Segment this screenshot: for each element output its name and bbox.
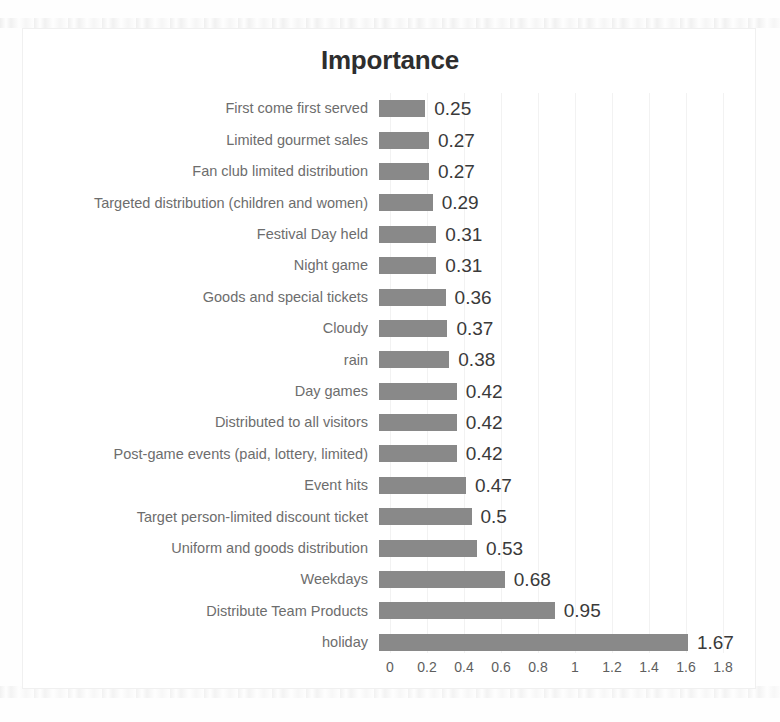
bar-container: 0.68 — [379, 564, 757, 595]
x-axis-tick-label: 1.8 — [713, 659, 732, 675]
category-label: Targeted distribution (children and wome… — [23, 196, 379, 211]
x-axis: 00.20.40.60.811.21.41.61.8 — [23, 653, 757, 683]
x-axis-tick-label: 1.4 — [639, 659, 658, 675]
bar-value-label: 0.47 — [475, 476, 512, 495]
bar[interactable] — [379, 100, 425, 117]
bar-container: 0.95 — [379, 595, 757, 626]
bar[interactable] — [379, 602, 555, 619]
scan-artifact-top — [0, 18, 780, 28]
bar-value-label: 1.67 — [697, 633, 734, 652]
bar[interactable] — [379, 226, 436, 243]
bar-value-label: 0.36 — [455, 288, 492, 307]
x-axis-tick-label: 1.6 — [676, 659, 695, 675]
bar-row: Goods and special tickets0.36 — [23, 281, 757, 312]
bar-value-label: 0.42 — [466, 413, 503, 432]
bar-row: Target person-limited discount ticket0.5 — [23, 501, 757, 532]
category-label: holiday — [23, 635, 379, 650]
bar-value-label: 0.38 — [458, 350, 495, 369]
bar-row: First come first served0.25 — [23, 93, 757, 124]
bar-value-label: 0.25 — [434, 99, 471, 118]
x-axis-tick-label: 1.2 — [602, 659, 621, 675]
bar[interactable] — [379, 383, 457, 400]
bar[interactable] — [379, 320, 447, 337]
bar-value-label: 0.53 — [486, 539, 523, 558]
x-axis-tick-label: 0.2 — [417, 659, 436, 675]
bar-value-label: 0.68 — [514, 570, 551, 589]
bar[interactable] — [379, 477, 466, 494]
bar-value-label: 0.5 — [481, 507, 507, 526]
category-label: Fan club limited distribution — [23, 164, 379, 179]
bar[interactable] — [379, 634, 688, 651]
bar[interactable] — [379, 414, 457, 431]
bar-row: rain0.38 — [23, 344, 757, 375]
bar-container: 0.42 — [379, 407, 757, 438]
bar-container: 0.27 — [379, 156, 757, 187]
category-label: Event hits — [23, 478, 379, 493]
bar-value-label: 0.29 — [442, 193, 479, 212]
bar-row: Limited gourmet sales0.27 — [23, 124, 757, 155]
bar-row: Targeted distribution (children and wome… — [23, 187, 757, 218]
bar[interactable] — [379, 351, 449, 368]
bar-row: Festival Day held0.31 — [23, 219, 757, 250]
bar-row: Cloudy0.37 — [23, 313, 757, 344]
plot-area: First come first served0.25Limited gourm… — [23, 93, 757, 653]
bar-row: Night game0.31 — [23, 250, 757, 281]
bar-value-label: 0.31 — [445, 256, 482, 275]
x-axis-tick-label: 0 — [386, 659, 394, 675]
bar-container: 0.27 — [379, 124, 757, 155]
category-label: Post-game events (paid, lottery, limited… — [23, 447, 379, 462]
category-label: Distribute Team Products — [23, 604, 379, 619]
category-label: Limited gourmet sales — [23, 133, 379, 148]
category-label: First come first served — [23, 101, 379, 116]
bar-container: 0.37 — [379, 313, 757, 344]
bar-value-label: 0.27 — [438, 162, 475, 181]
bar-row: Event hits0.47 — [23, 470, 757, 501]
bar-value-label: 0.42 — [466, 382, 503, 401]
bar-container: 0.31 — [379, 250, 757, 281]
bar-row: Distributed to all visitors0.42 — [23, 407, 757, 438]
category-label: Cloudy — [23, 321, 379, 336]
bar-row: Post-game events (paid, lottery, limited… — [23, 438, 757, 469]
bar[interactable] — [379, 571, 505, 588]
bar[interactable] — [379, 257, 436, 274]
bar-row: Weekdays0.68 — [23, 564, 757, 595]
bar-row: Fan club limited distribution0.27 — [23, 156, 757, 187]
bar-container: 0.53 — [379, 532, 757, 563]
chart-frame: Importance First come first served0.25Li… — [22, 28, 756, 689]
category-label: Day games — [23, 384, 379, 399]
x-axis-tick-label: 0.8 — [528, 659, 547, 675]
bar[interactable] — [379, 163, 429, 180]
bar-container: 0.31 — [379, 219, 757, 250]
category-label: Uniform and goods distribution — [23, 541, 379, 556]
category-label: Target person-limited discount ticket — [23, 510, 379, 525]
bar-value-label: 0.37 — [456, 319, 493, 338]
category-label: rain — [23, 353, 379, 368]
bar-container: 0.42 — [379, 438, 757, 469]
bar-value-label: 0.27 — [438, 131, 475, 150]
bar[interactable] — [379, 540, 477, 557]
bar[interactable] — [379, 132, 429, 149]
bar-value-label: 0.95 — [564, 601, 601, 620]
bar[interactable] — [379, 289, 446, 306]
x-axis-tick-label: 1 — [571, 659, 579, 675]
chart-title: Importance — [23, 45, 757, 76]
bar[interactable] — [379, 194, 433, 211]
bar-container: 0.36 — [379, 281, 757, 312]
category-label: Festival Day held — [23, 227, 379, 242]
bar[interactable] — [379, 445, 457, 462]
bar-container: 0.29 — [379, 187, 757, 218]
bar-row: Uniform and goods distribution0.53 — [23, 532, 757, 563]
bar-container: 0.38 — [379, 344, 757, 375]
x-axis-tick-label: 0.6 — [491, 659, 510, 675]
category-label: Night game — [23, 258, 379, 273]
x-axis-tick-label: 0.4 — [454, 659, 473, 675]
bar[interactable] — [379, 508, 472, 525]
bar-container: 0.25 — [379, 93, 757, 124]
bar-row: Day games0.42 — [23, 376, 757, 407]
category-label: Distributed to all visitors — [23, 415, 379, 430]
category-label: Goods and special tickets — [23, 290, 379, 305]
bar-value-label: 0.31 — [445, 225, 482, 244]
bar-container: 0.47 — [379, 470, 757, 501]
bar-container: 0.42 — [379, 376, 757, 407]
bar-row: Distribute Team Products0.95 — [23, 595, 757, 626]
